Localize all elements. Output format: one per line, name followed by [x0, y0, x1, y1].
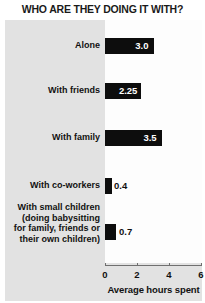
bar-with-co-workers: 0.4 [105, 178, 112, 194]
bar-row: With co-workers 0.4 [5, 178, 202, 194]
bar-row: With family 3.5 [5, 130, 202, 146]
bar-row: With friends 2.25 [5, 83, 202, 99]
bar-value-label: 3.5 [143, 132, 156, 143]
bar-row: Alone 3.0 [5, 38, 202, 54]
category-label: With co-workers [4, 180, 100, 191]
bar-value-label: 3.0 [135, 40, 148, 51]
chart-title: WHO ARE THEY DOING IT WITH? [0, 3, 205, 15]
category-label-line: Alone [75, 40, 100, 50]
bar-with-family: 3.5 [105, 130, 162, 146]
x-axis-tick [105, 263, 106, 266]
category-label-line: for family, friends or [4, 223, 100, 234]
bar-chart-figure: WHO ARE THEY DOING IT WITH? Alone 3.0 Wi… [0, 0, 205, 303]
x-axis-tick [169, 263, 170, 266]
x-axis-tick-label: 0 [95, 269, 115, 280]
category-label: Alone [4, 40, 100, 51]
x-axis-tick [201, 263, 202, 266]
x-axis-line [105, 265, 202, 266]
category-label-line: With friends [48, 85, 100, 95]
x-axis-tick-label: 4 [159, 269, 179, 280]
category-label: With friends [4, 85, 100, 96]
x-axis-tick-label: 2 [127, 269, 147, 280]
bar-value-label: 2.25 [119, 85, 138, 96]
category-label-line: With small children [4, 202, 100, 213]
bar-with-small-children: 0.7 [105, 224, 116, 240]
bar-row: With small children (doing babysitting f… [5, 224, 202, 240]
x-axis-title: Average hours spent [105, 284, 202, 295]
x-axis-tick [137, 263, 138, 266]
bar-alone: 3.0 [105, 38, 154, 54]
chart-panel: Alone 3.0 With friends 2.25 With family … [5, 20, 202, 301]
category-label-line: (doing babysitting [4, 213, 100, 224]
x-axis-tick-label: 6 [191, 269, 205, 280]
category-label: With family [4, 132, 100, 143]
bar-value-label: 0.4 [114, 180, 127, 191]
bar-value-label: 0.7 [119, 226, 132, 237]
category-label-line: With family [52, 132, 100, 142]
bar-with-friends: 2.25 [105, 83, 141, 99]
category-label: With small children (doing babysitting f… [4, 202, 100, 244]
category-label-line: With co-workers [30, 180, 100, 190]
category-label-line: their own children) [4, 234, 100, 245]
